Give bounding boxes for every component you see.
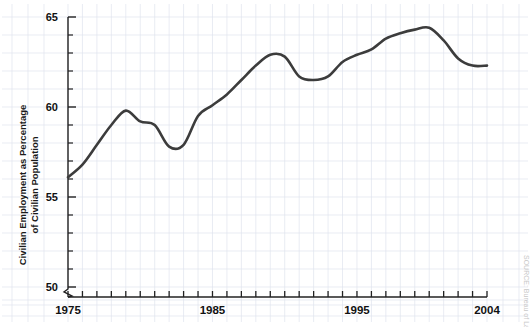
- chart-container: Civilian Employment as Percentage of Civ…: [0, 0, 530, 327]
- y-tick-label: 55: [46, 191, 58, 203]
- line-chart: Civilian Employment as Percentage of Civ…: [0, 0, 530, 327]
- y-tick-label: 60: [46, 101, 58, 113]
- y-tick-label: 65: [46, 11, 58, 23]
- y-tick-label: 50: [46, 281, 58, 293]
- source-note: SOURCE: Bureau of Labor Statistics: [523, 255, 530, 327]
- y-axis-title-line1: Civilian Employment as Percentage: [17, 105, 28, 266]
- y-axis-title-line2: of Civilian Population: [29, 136, 40, 233]
- x-tick-label: 2004: [474, 304, 500, 316]
- x-tick-label: 1975: [55, 304, 81, 316]
- x-tick-label: 1985: [200, 304, 226, 316]
- x-tick-label: 1995: [344, 304, 370, 316]
